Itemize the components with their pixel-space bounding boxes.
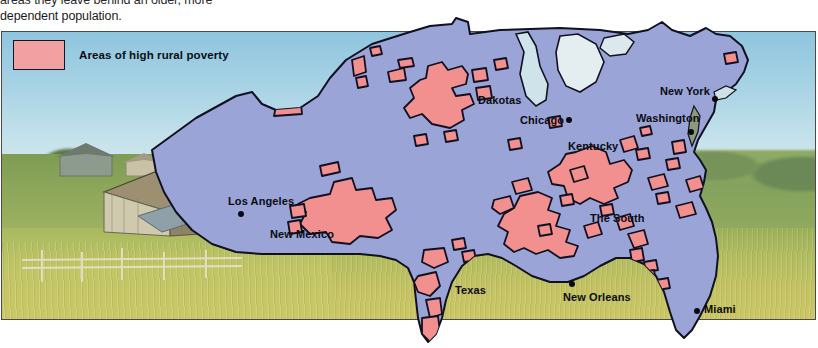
city-dot-los-angeles	[238, 211, 244, 217]
region-label-the-south: The South	[590, 212, 645, 224]
region-label-kentucky: Kentucky	[568, 140, 618, 152]
city-label-los-angeles: Los Angeles	[228, 195, 294, 207]
region-label-dakotas: Dakotas	[478, 94, 522, 106]
region-label-texas: Texas	[455, 284, 486, 296]
map-legend: Areas of high rural poverty	[13, 40, 229, 70]
city-label-new-orleans: New Orleans	[563, 291, 631, 303]
city-dot-miami	[694, 308, 700, 314]
city-label-new-york: New York	[660, 85, 710, 97]
city-label-washington: Washington	[636, 112, 700, 124]
city-dot-new-orleans	[569, 281, 575, 287]
poverty-map-figure: areas they leave behind an older, more d…	[0, 0, 818, 348]
city-label-chicago: Chicago	[520, 114, 564, 126]
region-label-new-mexico: New Mexico	[270, 228, 334, 240]
city-dot-washington	[688, 129, 694, 135]
city-label-miami: Miami	[704, 303, 736, 315]
city-dot-chicago	[566, 117, 572, 123]
city-dot-new-york	[712, 96, 718, 102]
legend-label: Areas of high rural poverty	[79, 49, 229, 61]
poverty-area-swatch	[13, 40, 65, 70]
